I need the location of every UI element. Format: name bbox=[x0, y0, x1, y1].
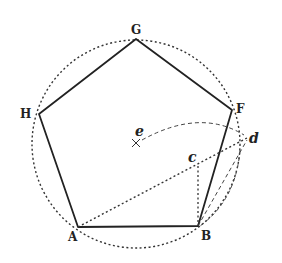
label-e: e bbox=[135, 123, 144, 139]
label-b: B bbox=[201, 229, 211, 243]
arc-e-d bbox=[142, 123, 244, 140]
label-c: c bbox=[188, 149, 197, 165]
label-d: d bbox=[249, 130, 259, 146]
pentagon-diagram: G F H A B e c d bbox=[0, 0, 282, 263]
circumscribed-circle bbox=[32, 40, 240, 248]
label-a: A bbox=[67, 230, 78, 244]
label-g: G bbox=[131, 23, 141, 37]
line-a-d bbox=[78, 138, 247, 227]
center-x-marker bbox=[132, 139, 140, 147]
label-f: F bbox=[236, 102, 245, 116]
label-h: H bbox=[20, 107, 31, 121]
